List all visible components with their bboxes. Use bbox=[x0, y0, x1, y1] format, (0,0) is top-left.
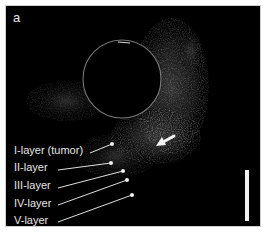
leader-dot bbox=[109, 161, 113, 165]
layer-label: V-layer bbox=[14, 214, 48, 226]
layer-label: II-layer bbox=[14, 161, 48, 173]
leader-dot bbox=[110, 142, 114, 146]
leader-line bbox=[58, 180, 127, 205]
leader-dot bbox=[130, 193, 134, 197]
lumen-circle bbox=[83, 40, 161, 118]
layer-label: IV-layer bbox=[14, 197, 51, 209]
leader-line bbox=[58, 195, 132, 222]
panel-label: a bbox=[13, 11, 20, 25]
figure-panel: a I-layer (tumor)II-layerIII-layerIV-lay… bbox=[5, 5, 261, 227]
layer-label: I-layer (tumor) bbox=[14, 144, 83, 156]
layer-label: III-layer bbox=[14, 179, 51, 191]
leader-dot bbox=[121, 169, 125, 173]
ultrasound-scan-image bbox=[6, 6, 261, 227]
leader-dot bbox=[125, 178, 129, 182]
scale-bar bbox=[245, 170, 249, 221]
